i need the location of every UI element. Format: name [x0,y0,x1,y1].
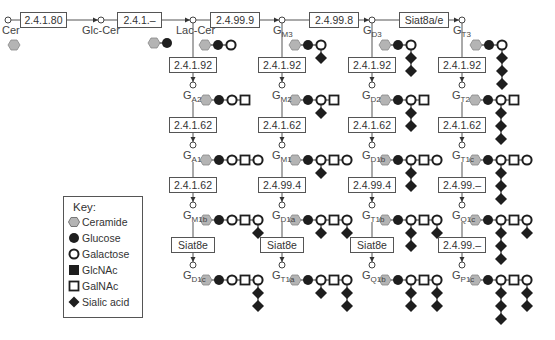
label-text: G [273,24,282,36]
pathway-node-icon [369,262,375,268]
ceramide-residue-icon [469,95,481,105]
galnac-residue-icon [241,96,250,105]
sialic-residue-icon [431,300,443,312]
enzyme-box-col3-row2: 2.4.1.62 [348,117,396,133]
label-gq1b: GQ1b [362,270,386,284]
label-subscript: D1b [371,155,386,164]
glucose-residue-icon [303,155,313,165]
galnac-residue-icon [420,276,429,285]
enzyme-box-top-1: 2.4.1.80 [20,12,67,28]
ceramide-residue-icon [470,40,482,50]
sialic-residue-icon [495,253,507,265]
label-subscript: Q1b [371,275,386,284]
label-subscript: A1 [192,155,202,164]
galnac-residue-icon [510,156,519,165]
arrow-head-icon [191,137,196,142]
label-text: G [452,149,461,161]
label-text: G [183,149,192,161]
glucose-residue-icon [483,275,493,285]
pathway-node-icon [190,202,196,208]
galactose-residue-icon [226,40,235,49]
label-text: G [453,24,462,36]
legend-label: Glucose [82,232,121,244]
arrow-head-icon [460,257,465,262]
label-gt1a: GT1a [272,270,294,284]
label-gm1b: GM1b [183,210,207,224]
arrow-head-icon [370,257,375,262]
sialic-residue-icon [405,180,417,192]
sialic-residue-icon [495,180,507,192]
galnac-residue-icon [420,96,429,105]
label-text: G [362,149,371,161]
galnac-residue-icon [510,216,519,225]
enzyme-box-top-5: Siat8a/e [399,12,449,28]
arrow-head-icon [280,257,285,262]
enzyme-box-col3-row4: Siat8e [350,237,394,253]
glucose-residue-icon [393,275,403,285]
pathway-node-icon [279,202,285,208]
label-gm1: GM1 [272,150,292,164]
sialic-residue-icon [495,193,507,205]
sialic-residue-icon [495,287,507,299]
glucose-residue-icon [214,215,224,225]
galnac-residue-icon [330,96,339,105]
galactose-residue-icon [316,215,325,224]
arrow-head-icon [454,18,459,23]
label-subscript: T2 [461,95,470,104]
legend-item-galactose: Galactose [68,247,129,261]
galactose-residue-icon [432,275,441,284]
label-gd1a: GD1a [272,210,295,224]
label-text: G [362,269,371,281]
label-text: Lac-Cer [176,24,215,36]
ceramide-residue-icon [199,40,211,50]
filled-circle-icon [68,232,80,244]
hexagon-icon [68,216,80,228]
label-text: G [183,89,192,101]
galactose-residue-icon [406,40,415,49]
label-gd2: GD2 [362,90,381,104]
pathway-node-icon [459,202,465,208]
sialic-residue-icon [521,287,533,299]
galactose-residue-icon [227,275,236,284]
enzyme-box-col2-row3: 2.4.99.4 [258,177,306,193]
sialic-residue-icon [496,78,508,90]
glucose-residue-icon [303,95,313,105]
sialic-residue-icon [495,133,507,145]
galactose-residue-icon [406,155,415,164]
arrow-head-icon [280,137,285,142]
enzyme-box-col3-row1: 2.4.1.92 [348,57,396,73]
diamond-icon [68,296,80,308]
galactose-residue-icon [432,215,441,224]
pathway-node-icon [98,17,104,23]
galnac-residue-icon [510,96,519,105]
legend-item-galnac: GalNAc [68,279,118,293]
ceramide-residue-icon [379,40,391,50]
arrow-head-icon [191,77,196,82]
pathway-node-icon [369,82,375,88]
galactose-residue-icon [497,40,506,49]
legend-label: Galactose [82,248,129,260]
sialic-residue-icon [341,287,353,299]
arrow-head-icon [191,197,196,202]
glucose-residue-icon [162,38,172,48]
pathway-node-icon [369,17,375,23]
enzyme-box-top-2: 2.4.1.– [117,12,162,28]
label-subscript: P1c [461,275,475,284]
enzyme-box-col2-row2: 2.4.1.62 [258,117,306,133]
galactose-residue-icon [342,215,351,224]
glucose-residue-icon [483,155,493,165]
galactose-residue-icon [342,155,351,164]
enzyme-box-top-3: 2.4.99.9 [210,12,260,28]
label-text: G [272,149,281,161]
ceramide-residue-icon [289,40,301,50]
glucose-residue-icon [483,215,493,225]
galnac-residue-icon [330,156,339,165]
sialic-residue-icon [405,300,417,312]
label-subscript: D1a [281,215,296,224]
ceramide-residue-icon [8,40,20,50]
sialic-residue-icon [315,227,327,239]
galactose-residue-icon [496,95,505,104]
sialic-residue-icon [495,167,507,179]
sialic-residue-icon [495,120,507,132]
label-text: G [363,24,372,36]
